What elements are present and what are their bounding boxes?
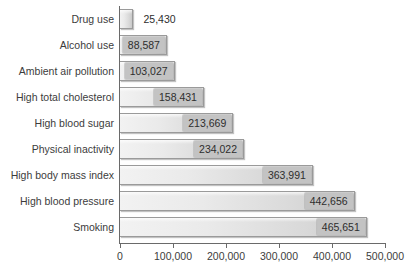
x-tick [279, 243, 280, 248]
value-label: 465,651 [317, 219, 365, 235]
bar-row: Physical inactivity234,022 [120, 136, 385, 162]
bar-wrapper: 234,022 [120, 139, 385, 159]
bar-wrapper: 158,431 [120, 87, 385, 107]
bar [120, 9, 133, 29]
value-label: 234,022 [194, 141, 242, 157]
x-tick-label: 0 [117, 250, 123, 262]
value-label: 213,669 [183, 115, 231, 131]
value-label: 158,431 [154, 89, 202, 105]
category-label: High body mass index [11, 162, 114, 188]
value-label: 442,656 [305, 193, 353, 209]
bar-row: High total cholesterol158,431 [120, 84, 385, 110]
category-label: Alcohol use [60, 32, 114, 58]
bar-wrapper: 363,991 [120, 165, 385, 185]
bar-wrapper: 465,651 [120, 217, 385, 237]
x-tick-label: 200,000 [207, 250, 245, 262]
x-tick-label: 500,000 [366, 250, 404, 262]
category-label: High blood pressure [20, 188, 114, 214]
category-label: Smoking [73, 214, 114, 240]
category-label: Drug use [71, 6, 114, 32]
bar-wrapper: 88,587 [120, 35, 385, 55]
value-label: 88,587 [123, 37, 165, 53]
value-label: 363,991 [263, 167, 311, 183]
bar-chart: Drug use25,430Alcohol use88,587Ambient a… [0, 0, 410, 268]
x-tick [173, 243, 174, 248]
x-tick [226, 243, 227, 248]
plot-area: Drug use25,430Alcohol use88,587Ambient a… [120, 6, 385, 244]
category-label: Ambient air pollution [19, 58, 114, 84]
category-label: High total cholesterol [16, 84, 114, 110]
x-tick [120, 243, 121, 248]
bar-row: High blood sugar213,669 [120, 110, 385, 136]
x-tick-label: 100,000 [154, 250, 192, 262]
bar-row: Drug use25,430 [120, 6, 385, 32]
bar-wrapper: 442,656 [120, 191, 385, 211]
bar-wrapper: 25,430 [120, 9, 385, 29]
x-tick-label: 300,000 [260, 250, 298, 262]
bar-row: High body mass index363,991 [120, 162, 385, 188]
bar-wrapper: 213,669 [120, 113, 385, 133]
x-tick [385, 243, 386, 248]
category-label: High blood sugar [35, 110, 114, 136]
bar-wrapper: 103,027 [120, 61, 385, 81]
bar-row: Alcohol use88,587 [120, 32, 385, 58]
bar-row: High blood pressure442,656 [120, 188, 385, 214]
x-tick-label: 400,000 [313, 250, 351, 262]
bar-row: Smoking465,651 [120, 214, 385, 240]
value-label: 25,430 [138, 11, 180, 27]
bar-row: Ambient air pollution103,027 [120, 58, 385, 84]
x-tick [332, 243, 333, 248]
category-label: Physical inactivity [32, 136, 114, 162]
value-label: 103,027 [125, 63, 173, 79]
